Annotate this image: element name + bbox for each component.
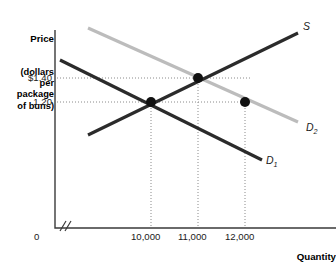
curve-label-demand-2: D2 xyxy=(306,122,318,137)
curve-demand-1 xyxy=(60,60,262,160)
curve-label-demand-1-text: D xyxy=(266,154,274,166)
axis-break-mark-1 xyxy=(60,221,66,231)
axis-break-mark-2 xyxy=(65,221,71,231)
x-tick-label-origin: 0 xyxy=(34,231,39,242)
curve-label-demand-2-sub: 2 xyxy=(314,127,318,136)
point-equilibrium-initial xyxy=(146,97,156,107)
curve-supply xyxy=(88,33,298,135)
x-axis-label: Quantity (packages of buns per week) xyxy=(248,229,336,272)
y-tick-label-120: 1.20 xyxy=(12,96,52,107)
x-tick-label-11000: 11,000 xyxy=(178,231,207,242)
curve-demand-2 xyxy=(88,28,298,122)
x-tick-label-10000: 10,000 xyxy=(131,231,160,242)
curve-label-demand-1-sub: 1 xyxy=(274,160,278,169)
x-axis xyxy=(55,222,336,228)
curve-label-demand-1: D1 xyxy=(266,155,278,170)
curve-label-demand-2-text: D xyxy=(306,121,314,133)
y-axis-label-main: Price xyxy=(0,33,54,44)
y-tick-label-140: $1.40 xyxy=(12,72,52,83)
point-equilibrium-new xyxy=(193,73,203,83)
point-quantity-demanded-old-price xyxy=(240,97,250,107)
curve-label-supply: S xyxy=(303,21,310,32)
curve-label-supply-text: S xyxy=(303,20,310,32)
x-axis-label-main: Quantity xyxy=(248,251,336,262)
supply-demand-chart: Price (dollars per package of buns) $1.4… xyxy=(0,0,336,272)
